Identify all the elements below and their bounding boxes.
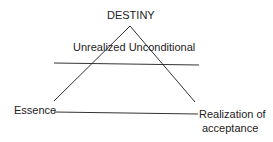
right-label-line2: acceptance [202, 122, 258, 134]
right-label-line1: Realization of [199, 108, 266, 120]
left-label: Essence [14, 104, 56, 116]
divider-line [54, 63, 199, 65]
triangle-diagram [0, 0, 273, 142]
middle-label: Unrealized Unconditional [73, 41, 195, 53]
base-line [54, 112, 198, 114]
apex-label: DESTINY [107, 9, 155, 21]
